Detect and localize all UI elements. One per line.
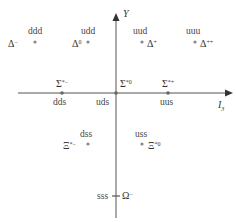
particle-xi-star-minus: Ξ*− (63, 141, 76, 151)
quarks-sss: sss (97, 191, 108, 201)
particle-delta-zero: Δ0 (72, 39, 81, 49)
i3-axis-label: I3 (218, 99, 224, 112)
charge: *+ (168, 79, 174, 85)
y-axis-arrow-icon (113, 13, 120, 21)
charge: ++ (206, 39, 213, 45)
dot-uds (114, 91, 118, 95)
charge: *− (62, 79, 68, 85)
dot-uud (140, 40, 143, 43)
quarks-uss: uss (135, 129, 147, 139)
particle-sigma-star-zero: Σ*0 (120, 79, 132, 89)
symbol: Σ (162, 78, 168, 89)
particle-delta-plus: Δ+ (147, 39, 157, 49)
i3-subscript: 3 (221, 106, 224, 112)
quarks-uud: uud (133, 26, 147, 36)
dot-uuu (193, 40, 196, 43)
dot-uus (166, 91, 170, 95)
charge: 0 (78, 39, 81, 45)
dot-dss (86, 142, 89, 145)
particle-delta-plusplus: Δ++ (200, 39, 213, 49)
quarks-dds: dds (53, 97, 66, 107)
particle-sigma-star-plus: Σ*+ (162, 79, 174, 89)
particle-omega-minus: Ω− (122, 191, 133, 201)
dot-uss (140, 142, 143, 145)
quarks-udd: udd (81, 26, 95, 36)
charge: *0 (126, 79, 132, 85)
particle-sigma-star-minus: Σ*− (56, 79, 68, 89)
particle-delta-minus: Δ− (8, 39, 18, 49)
quarks-uuu: uuu (186, 26, 200, 36)
i3-axis-arrow-icon (225, 90, 233, 97)
quarks-uus: uus (160, 97, 173, 107)
dot-dds (60, 91, 64, 95)
dot-ddd (33, 40, 36, 43)
y-axis-label: Y (123, 8, 129, 19)
quarks-uds: uds (96, 97, 109, 107)
charge: + (153, 39, 156, 45)
charge: *0 (154, 141, 160, 147)
particle-xi-star-zero: Ξ*0 (148, 141, 160, 151)
symbol: Σ (56, 78, 62, 89)
dot-udd (86, 40, 89, 43)
quarks-ddd: ddd (28, 26, 42, 36)
charge: − (14, 39, 17, 45)
quarks-dss: dss (80, 129, 92, 139)
symbol: Σ (120, 78, 126, 89)
charge: *− (69, 141, 75, 147)
charge: − (129, 191, 132, 197)
